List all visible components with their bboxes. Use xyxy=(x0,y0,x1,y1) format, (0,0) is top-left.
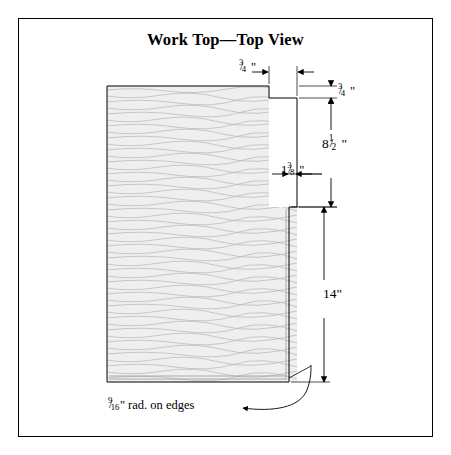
figure-title: Work Top—Top View xyxy=(0,30,451,50)
note-edge-radius: 9/16" rad. on edges xyxy=(108,398,194,413)
edge-radius-fraction: 9/16 xyxy=(108,398,120,411)
figure-page: Work Top—Top View xyxy=(0,0,451,455)
dim-step-depth: 3/4" xyxy=(338,84,355,99)
dim-upper-height-fraction: 1/2 xyxy=(329,137,342,151)
notch-cutout xyxy=(269,86,297,207)
dim-lip-width: 13/8" xyxy=(281,163,304,178)
dim-top-width-unit: " xyxy=(251,60,256,74)
dim-lower-height-whole: 14 xyxy=(323,286,337,301)
dim-upper-height-unit: " xyxy=(342,136,348,151)
work-top-slab xyxy=(107,86,297,382)
dim-lower-height-unit: " xyxy=(337,286,343,301)
dim-lip-width-unit: " xyxy=(299,163,304,177)
dim-lip-width-fraction: 3/8 xyxy=(287,163,299,176)
edge-radius-text: " rad. on edges xyxy=(120,398,195,412)
dim-lower-height: 14" xyxy=(323,286,342,302)
dim-upper-height-whole: 8 xyxy=(322,136,329,151)
dim-top-width: 3/4" xyxy=(239,60,256,75)
dim-upper-height: 81/2" xyxy=(322,136,347,152)
dim-step-depth-unit: " xyxy=(350,84,355,98)
dim-top-width-fraction: 3/4 xyxy=(239,60,251,73)
dim-step-depth-fraction: 3/4 xyxy=(338,84,350,97)
